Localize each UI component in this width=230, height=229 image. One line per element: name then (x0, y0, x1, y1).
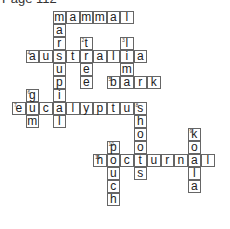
cell-letter: l (108, 50, 120, 63)
cell-letter: r (162, 154, 174, 167)
cell-letter: s (135, 167, 147, 180)
cell-letter: u (148, 154, 160, 167)
cell-letter: k (148, 76, 160, 89)
cell-letter: p (94, 102, 106, 115)
cell-letter: a (27, 50, 39, 63)
page-title: Page 112 (2, 0, 57, 6)
cell-letter: u (40, 50, 52, 63)
crossword-cell[interactable]: k (147, 76, 161, 89)
crossword-cell[interactable]: h (107, 193, 121, 206)
crossword-cell[interactable]: t (66, 50, 80, 63)
crossword-cell[interactable]: a (188, 180, 202, 193)
cell-letter: r (135, 76, 147, 89)
cell-letter: m (27, 115, 39, 128)
crossword-cell[interactable]: a (120, 76, 134, 89)
cell-letter: l (54, 115, 66, 128)
cell-letter: a (108, 11, 120, 24)
crossword-cell[interactable]: 11h (93, 154, 107, 167)
cell-letter: a (189, 180, 201, 193)
cell-letter: b (108, 76, 120, 89)
cell-letter: a (67, 11, 79, 24)
crossword-cell[interactable]: u (147, 154, 161, 167)
cell-letter: c (40, 102, 52, 115)
crossword-cell[interactable]: n (174, 154, 188, 167)
crossword-cell[interactable]: 7e (12, 102, 26, 115)
crossword-cell[interactable]: u (120, 102, 134, 115)
cell-letter: n (175, 154, 187, 167)
cell-letter: m (81, 11, 93, 24)
crossword-cell[interactable]: s (134, 167, 148, 180)
crossword-cell[interactable]: 5b (107, 76, 121, 89)
cell-letter: a (135, 50, 147, 63)
crossword-cell[interactable]: u (39, 50, 53, 63)
crossword-cell[interactable]: c (120, 154, 134, 167)
crossword-cell[interactable]: l (120, 11, 134, 24)
crossword-cell[interactable]: p (93, 102, 107, 115)
crossword-cell[interactable]: 4a (26, 50, 40, 63)
crossword-cell[interactable]: e (80, 76, 94, 89)
crossword-cell[interactable]: r (161, 154, 175, 167)
cell-letter: u (121, 102, 133, 115)
cell-letter: h (94, 154, 106, 167)
cell-letter: e (13, 102, 25, 115)
cell-letter: t (108, 102, 120, 115)
crossword-cell[interactable]: l (107, 50, 121, 63)
crossword-cell[interactable]: r (134, 76, 148, 89)
crossword-cell[interactable]: a (66, 11, 80, 24)
cell-letter: t (67, 50, 79, 63)
crossword-cell[interactable]: a (93, 50, 107, 63)
crossword-cell[interactable]: t (107, 102, 121, 115)
crossword-cell[interactable]: y (80, 102, 94, 115)
cell-letter: m (94, 11, 106, 24)
crossword-cell[interactable]: a (134, 50, 148, 63)
crossword-cell[interactable]: m (80, 11, 94, 24)
crossword-cell[interactable]: l (53, 115, 67, 128)
cell-letter: h (108, 193, 120, 206)
cell-letter: y (81, 102, 93, 115)
cell-letter: l (202, 154, 214, 167)
cell-letter: c (121, 154, 133, 167)
crossword-cell[interactable]: m (93, 11, 107, 24)
cell-letter: a (94, 50, 106, 63)
crossword-cell[interactable]: c (39, 102, 53, 115)
cell-letter: e (81, 76, 93, 89)
crossword-cell[interactable]: l (66, 102, 80, 115)
crossword-cell[interactable]: l (201, 154, 215, 167)
cell-letter: l (67, 102, 79, 115)
crossword-cell[interactable]: a (107, 11, 121, 24)
cell-letter: l (121, 11, 133, 24)
crossword-cell[interactable]: m (26, 115, 40, 128)
cell-letter: a (121, 76, 133, 89)
